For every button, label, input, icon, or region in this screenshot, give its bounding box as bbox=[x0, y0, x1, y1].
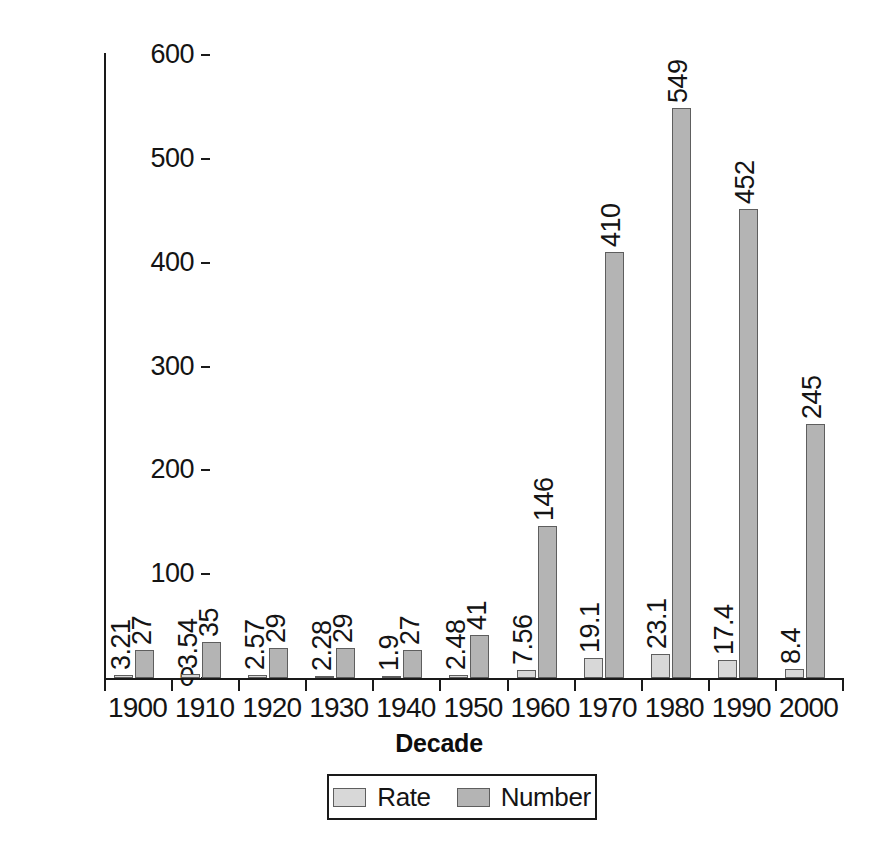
bar-number-1910[interactable]: 35 bbox=[202, 642, 221, 678]
chart-legend: Rate Number bbox=[327, 774, 597, 820]
plot-area: 0100200300400500600 3.21273.54352.57292.… bbox=[105, 55, 843, 678]
bar-rate-1920[interactable]: 2.57 bbox=[248, 675, 267, 678]
bar-rate-1990[interactable]: 17.4 bbox=[718, 660, 737, 678]
bar-value-label: 27 bbox=[129, 616, 155, 645]
x-axis-label-1930: 1930 bbox=[305, 690, 372, 726]
bar-number-1940[interactable]: 27 bbox=[403, 650, 422, 678]
bar-group: 8.4245 bbox=[785, 55, 825, 678]
bar-rate-1970[interactable]: 19.1 bbox=[584, 658, 603, 678]
bar-group: 23.1549 bbox=[651, 55, 691, 678]
bar-rate-1910[interactable]: 3.54 bbox=[181, 674, 200, 678]
bar-chart: 0100200300400500600 3.21273.54352.57292.… bbox=[0, 0, 878, 843]
bar-number-1980[interactable]: 549 bbox=[672, 108, 691, 678]
bar-group: 2.4841 bbox=[449, 55, 489, 678]
x-axis-label-1920: 1920 bbox=[238, 690, 305, 726]
bar-group: 17.4452 bbox=[718, 55, 758, 678]
bar-value-label: 549 bbox=[665, 59, 691, 103]
bar-number-1900[interactable]: 27 bbox=[135, 650, 154, 678]
bar-value-label: 29 bbox=[330, 614, 356, 643]
bar-group: 3.5435 bbox=[181, 55, 221, 678]
legend-label-number: Number bbox=[501, 783, 591, 811]
bar-value-label: 410 bbox=[598, 204, 624, 248]
legend-label-rate: Rate bbox=[377, 783, 430, 811]
bar-rate-1960[interactable]: 7.56 bbox=[517, 670, 536, 678]
bar-value-label: 23.1 bbox=[644, 598, 670, 649]
x-axis-label-1980: 1980 bbox=[641, 690, 708, 726]
bar-group: 19.1410 bbox=[584, 55, 624, 678]
bar-value-label: 452 bbox=[732, 160, 758, 204]
bar-number-1960[interactable]: 146 bbox=[538, 526, 557, 678]
x-axis-labels: 1900191019201930194019501960197019801990… bbox=[104, 690, 844, 730]
legend-item-number[interactable]: Number bbox=[457, 783, 591, 811]
bar-group: 3.2127 bbox=[114, 55, 154, 678]
bar-value-label: 17.4 bbox=[711, 604, 737, 655]
bar-group: 2.2829 bbox=[315, 55, 355, 678]
bar-group: 1.927 bbox=[382, 55, 422, 678]
x-axis-label-1970: 1970 bbox=[574, 690, 641, 726]
x-axis-label-1960: 1960 bbox=[507, 690, 574, 726]
x-axis-label-1940: 1940 bbox=[372, 690, 439, 726]
bar-number-2000[interactable]: 245 bbox=[806, 424, 825, 678]
bar-rate-2000[interactable]: 8.4 bbox=[785, 669, 804, 678]
x-axis-label-2000: 2000 bbox=[775, 690, 842, 726]
x-axis-label-1910: 1910 bbox=[171, 690, 238, 726]
legend-item-rate[interactable]: Rate bbox=[333, 783, 430, 811]
x-axis-line bbox=[104, 678, 844, 680]
bar-value-label: 41 bbox=[464, 601, 490, 630]
bar-value-label: 7.56 bbox=[510, 615, 536, 666]
x-axis-label-1950: 1950 bbox=[439, 690, 506, 726]
bar-group: 2.5729 bbox=[248, 55, 288, 678]
bar-value-label: 35 bbox=[196, 608, 222, 637]
legend-swatch-rate bbox=[333, 788, 366, 807]
bar-rate-1980[interactable]: 23.1 bbox=[651, 654, 670, 678]
bar-value-label: 29 bbox=[263, 614, 289, 643]
bar-value-label: 146 bbox=[531, 478, 557, 522]
x-axis-title: Decade bbox=[0, 729, 878, 758]
bar-number-1920[interactable]: 29 bbox=[269, 648, 288, 678]
bar-rate-1930[interactable]: 2.28 bbox=[315, 676, 334, 679]
bar-value-label: 8.4 bbox=[778, 628, 804, 664]
bar-rate-1950[interactable]: 2.48 bbox=[449, 675, 468, 678]
bar-rate-1940[interactable]: 1.9 bbox=[382, 676, 401, 679]
bar-rate-1900[interactable]: 3.21 bbox=[114, 675, 133, 678]
bar-number-1990[interactable]: 452 bbox=[739, 209, 758, 678]
bar-number-1930[interactable]: 29 bbox=[336, 648, 355, 678]
bar-number-1950[interactable]: 41 bbox=[470, 635, 489, 678]
bar-group: 7.56146 bbox=[517, 55, 557, 678]
bar-number-1970[interactable]: 410 bbox=[605, 252, 624, 678]
bar-value-label: 245 bbox=[799, 375, 825, 419]
x-axis-label-1900: 1900 bbox=[104, 690, 171, 726]
bar-value-label: 19.1 bbox=[577, 603, 603, 654]
x-axis-label-1990: 1990 bbox=[708, 690, 775, 726]
legend-swatch-number bbox=[457, 788, 490, 807]
bar-value-label: 27 bbox=[397, 616, 423, 645]
